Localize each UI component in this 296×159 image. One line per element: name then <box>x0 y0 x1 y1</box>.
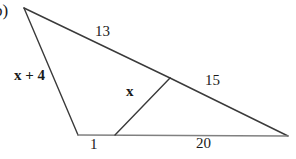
length-label-base-right-segment: 20 <box>196 136 211 151</box>
length-label-right-side: 15 <box>205 73 220 88</box>
length-label-left-side: x + 4 <box>14 68 45 83</box>
problem-number-label: b) <box>0 2 8 19</box>
segment-base <box>78 135 288 136</box>
length-label-base-left-segment: 1 <box>90 137 98 152</box>
segment-cevian <box>115 78 170 135</box>
segment-right-side <box>170 78 288 136</box>
length-label-cevian: x <box>126 84 134 99</box>
segment-top-side <box>24 8 170 78</box>
geometry-figure: b) 13 x + 4 x 15 1 20 <box>0 0 296 159</box>
length-label-top-side: 13 <box>95 24 110 39</box>
